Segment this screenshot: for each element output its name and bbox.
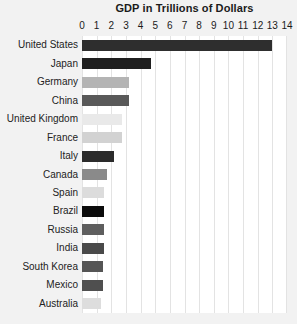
y-category-label: France [0, 132, 78, 143]
gridline [199, 36, 200, 313]
x-tick-label: 1 [94, 20, 100, 31]
bar [82, 132, 122, 143]
gridline [228, 36, 229, 313]
bar [82, 280, 103, 291]
x-tick-label: 7 [182, 20, 188, 31]
y-category-label: United States [0, 39, 78, 50]
bar [82, 77, 129, 88]
gridline [185, 36, 186, 313]
x-tick-label: 5 [152, 20, 158, 31]
y-category-label: Brazil [0, 205, 78, 216]
gridline [243, 36, 244, 313]
bar [82, 261, 103, 272]
y-category-label: India [0, 242, 78, 253]
gridline [141, 36, 142, 313]
bar [82, 40, 272, 51]
x-tick-label: 10 [223, 20, 234, 31]
bar [82, 151, 114, 162]
bar [82, 187, 104, 198]
y-category-label: Russia [0, 224, 78, 235]
y-axis-category-labels: United StatesJapanGermanyChinaUnited Kin… [0, 36, 78, 313]
plot-area [82, 36, 287, 313]
y-category-label: Japan [0, 58, 78, 69]
bar [82, 169, 107, 180]
x-tick-label: 13 [267, 20, 278, 31]
x-tick-label: 0 [79, 20, 85, 31]
x-tick-label: 14 [281, 20, 292, 31]
x-tick-label: 9 [211, 20, 217, 31]
x-tick-label: 6 [167, 20, 173, 31]
y-category-label: South Korea [0, 261, 78, 272]
gridline [286, 36, 287, 313]
gridline [272, 36, 273, 313]
bar [82, 224, 104, 235]
bar [82, 206, 104, 217]
gridline [258, 36, 259, 313]
bar [82, 58, 151, 69]
bar [82, 114, 122, 125]
gridline [170, 36, 171, 313]
y-category-label: Mexico [0, 279, 78, 290]
x-tick-label: 3 [123, 20, 129, 31]
bar [82, 243, 104, 254]
x-tick-label: 8 [196, 20, 202, 31]
y-category-label: United Kingdom [0, 113, 78, 124]
y-category-label: Germany [0, 76, 78, 87]
chart-title: GDP in Trillions of Dollars [82, 2, 287, 14]
y-category-label: China [0, 95, 78, 106]
gridline [155, 36, 156, 313]
gridline [214, 36, 215, 313]
gdp-bar-chart: GDP in Trillions of Dollars 012345678910… [0, 0, 297, 324]
y-category-label: Australia [0, 298, 78, 309]
y-category-label: Italy [0, 150, 78, 161]
x-tick-label: 12 [252, 20, 263, 31]
x-axis-tick-labels: 01234567891011121314 [82, 20, 287, 34]
x-tick-label: 4 [138, 20, 144, 31]
bar [82, 298, 101, 309]
y-category-label: Canada [0, 169, 78, 180]
x-tick-label: 11 [238, 20, 248, 31]
y-category-label: Spain [0, 187, 78, 198]
x-tick-label: 2 [109, 20, 115, 31]
bar [82, 95, 129, 106]
